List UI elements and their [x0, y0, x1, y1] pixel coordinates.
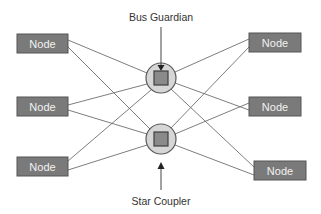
- node-right-middle: Node: [249, 97, 301, 116]
- node-left-middle: Node: [17, 97, 68, 116]
- edge-right-top-to-coupler: [171, 47, 249, 128]
- node-label: Node: [262, 37, 288, 49]
- node-label: Node: [262, 101, 288, 113]
- edge-left-top-to-coupler: [68, 47, 150, 129]
- node-left-bottom: Node: [17, 157, 68, 176]
- hub-square-icon: [154, 132, 168, 146]
- star-coupler-label: Star Coupler: [132, 195, 191, 207]
- node-label: Node: [29, 161, 55, 173]
- node-right-top: Node: [249, 33, 301, 52]
- edge-left-top-to-guardian: [68, 40, 147, 73]
- node-label: Node: [267, 165, 293, 177]
- edge-right-middle-to-guardian: [175, 83, 249, 110]
- hub-square-icon: [154, 71, 168, 85]
- hub-star-coupler: [146, 124, 176, 154]
- edge-right-middle-to-coupler: [175, 103, 249, 134]
- edge-right-top-to-guardian: [175, 39, 249, 72]
- bus-guardian-label: Bus Guardian: [129, 11, 193, 23]
- arrow-up-icon: [158, 162, 165, 169]
- node-left-top: Node: [17, 34, 68, 53]
- node-label: Node: [29, 101, 55, 113]
- edge-left-bottom-to-coupler: [68, 145, 147, 170]
- node-label: Node: [29, 38, 55, 50]
- edge-right-bottom-to-coupler: [175, 145, 254, 175]
- edge-left-middle-to-guardian: [68, 84, 147, 105]
- edge-left-bottom-to-guardian: [68, 90, 151, 161]
- node-right-bottom: Node: [254, 161, 306, 180]
- edge-right-bottom-to-guardian: [171, 89, 254, 167]
- star-topology-diagram: Bus Guardian Star Coupler Node Node Node…: [0, 0, 321, 214]
